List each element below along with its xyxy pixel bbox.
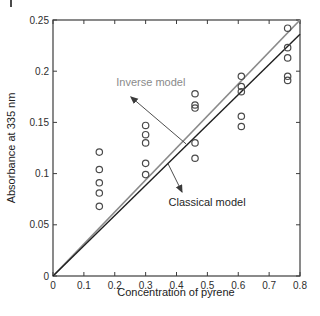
annotation-label: Classical model bbox=[169, 196, 246, 208]
data-point-marker bbox=[192, 91, 198, 97]
y-tick-label: 0.1 bbox=[35, 168, 49, 179]
x-tick-label: 0.8 bbox=[293, 280, 307, 291]
y-tick-label: 0.2 bbox=[35, 66, 49, 77]
data-point-marker bbox=[284, 25, 290, 31]
y-tick-label: 0.25 bbox=[30, 15, 50, 26]
y-axis-label: Absorbance at 335 nm bbox=[5, 93, 17, 204]
data-point-marker bbox=[142, 122, 148, 128]
x-tick-label: 0.7 bbox=[262, 280, 276, 291]
data-point-marker bbox=[96, 190, 102, 196]
data-point-marker bbox=[96, 166, 102, 172]
data-point-marker bbox=[142, 160, 148, 166]
x-tick-label: 0 bbox=[50, 280, 56, 291]
data-point-marker bbox=[96, 180, 102, 186]
data-point-marker bbox=[192, 140, 198, 146]
annotation-label: Inverse model bbox=[116, 76, 185, 88]
page-corner-mark bbox=[10, 0, 12, 7]
y-tick-label: 0.05 bbox=[30, 219, 50, 230]
annotation-arrow bbox=[131, 97, 186, 144]
data-point-marker bbox=[96, 149, 102, 155]
data-point-marker bbox=[284, 73, 290, 79]
model-line bbox=[53, 20, 300, 276]
data-point-marker bbox=[142, 140, 148, 146]
data-point-marker bbox=[142, 171, 148, 177]
plot-area: 00.10.20.30.40.50.60.70.800.050.10.150.2… bbox=[30, 15, 308, 292]
annotation-arrow bbox=[168, 163, 182, 192]
y-tick-label: 0 bbox=[43, 271, 49, 282]
data-point-marker bbox=[142, 131, 148, 137]
data-point-marker bbox=[238, 113, 244, 119]
y-tick-label: 0.15 bbox=[30, 117, 50, 128]
data-point-marker bbox=[238, 73, 244, 79]
scatter-chart: 00.10.20.30.40.50.60.70.800.050.10.150.2… bbox=[0, 0, 320, 316]
data-point-marker bbox=[192, 155, 198, 161]
data-point-marker bbox=[96, 203, 102, 209]
data-point-marker bbox=[284, 55, 290, 61]
x-axis-label: Concentration of pyrene bbox=[117, 286, 234, 298]
figure-page: 00.10.20.30.40.50.60.70.800.050.10.150.2… bbox=[0, 0, 320, 316]
data-point-marker bbox=[238, 123, 244, 129]
model-line bbox=[53, 34, 300, 276]
x-tick-label: 0.1 bbox=[77, 280, 91, 291]
